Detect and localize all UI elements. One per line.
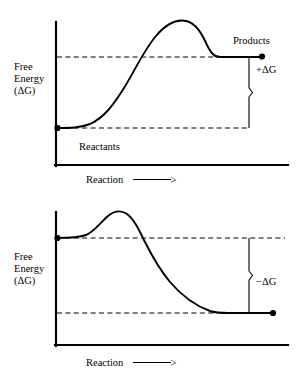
y-axis-label-line-3: (ΔG) <box>14 275 36 287</box>
y-axis-label-line-2: Energy <box>14 263 45 274</box>
y-axis-label-line-1: Free <box>14 251 33 262</box>
products-endpoint-dot <box>270 310 276 316</box>
y-axis-label-line-1: Free <box>14 61 33 72</box>
exergonic-plot-area: Free Energy (ΔG) −ΔG Reaction > <box>0 190 296 381</box>
y-axis-label-line-2: Energy <box>14 73 45 84</box>
x-axis-arrow-icon: > <box>170 174 177 186</box>
delta-g-label: +ΔG <box>256 64 277 75</box>
reactants-label: Reactants <box>79 141 120 152</box>
x-axis-label: Reaction <box>86 174 124 185</box>
products-endpoint-dot <box>259 53 265 59</box>
endergonic-reaction-panel: Free Energy (ΔG) Reactants Products +ΔG … <box>0 0 296 190</box>
free-energy-diagram-figure: Free Energy (ΔG) Reactants Products +ΔG … <box>0 0 296 381</box>
x-axis-label: Reaction <box>86 357 124 368</box>
products-label: Products <box>233 35 270 46</box>
endergonic-plot-area: Free Energy (ΔG) Reactants Products +ΔG … <box>0 0 296 190</box>
delta-g-bracket <box>249 57 253 128</box>
exergonic-energy-curve <box>57 212 273 314</box>
reactants-endpoint-dot <box>54 235 60 241</box>
reactants-endpoint-dot <box>54 125 60 131</box>
endergonic-energy-curve <box>57 21 262 128</box>
delta-g-label: −ΔG <box>256 276 277 287</box>
y-axis-label-line-3: (ΔG) <box>14 85 36 97</box>
delta-g-bracket <box>249 238 253 313</box>
x-axis-arrow-icon: > <box>170 357 177 369</box>
exergonic-reaction-panel: Free Energy (ΔG) −ΔG Reaction > <box>0 190 296 381</box>
